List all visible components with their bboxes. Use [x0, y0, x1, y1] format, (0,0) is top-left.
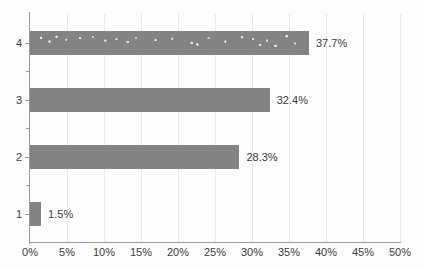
bar-value-label-1: 1.5% — [48, 202, 73, 226]
bar-row: 28.3% — [30, 142, 400, 172]
bar-value-label-2: 28.3% — [246, 145, 277, 169]
y-tick-minor — [26, 71, 30, 72]
y-tick-label-1: 1 — [0, 199, 22, 229]
x-tick-label: 40% — [315, 246, 337, 258]
y-tick-minor — [26, 128, 30, 129]
y-tick-label-3: 3 — [0, 85, 22, 115]
bar-value-label-3: 32.4% — [277, 88, 308, 112]
y-tick-major — [25, 100, 30, 101]
bar-value-label-4: 37.7% — [316, 31, 347, 55]
bar-3 — [30, 88, 270, 112]
x-tick-label: 0% — [22, 246, 38, 258]
plot-area: 37.7%32.4%28.3%1.5% — [30, 14, 400, 242]
x-tick-label: 15% — [130, 246, 152, 258]
bar-chart: 37.7%32.4%28.3%1.5% 4321 0%5%10%15%20%25… — [0, 0, 425, 269]
bar-row: 32.4% — [30, 85, 400, 115]
x-tick-label: 50% — [389, 246, 411, 258]
x-tick-label: 45% — [352, 246, 374, 258]
x-axis-line — [29, 242, 401, 243]
x-tick-label: 5% — [59, 246, 75, 258]
bar-2 — [30, 145, 239, 169]
bar-row: 1.5% — [30, 199, 400, 229]
gridline-50 — [400, 14, 401, 242]
y-tick-label-2: 2 — [0, 142, 22, 172]
bar-4 — [30, 31, 309, 55]
y-tick-major — [25, 214, 30, 215]
x-tick-label: 10% — [93, 246, 115, 258]
y-tick-label-4: 4 — [0, 28, 22, 58]
y-tick-major — [25, 43, 30, 44]
x-tick-label: 35% — [278, 246, 300, 258]
x-tick-label: 20% — [167, 246, 189, 258]
x-tick-label: 25% — [204, 246, 226, 258]
y-tick-minor — [26, 185, 30, 186]
y-tick-major — [25, 157, 30, 158]
bar-1 — [30, 202, 41, 226]
bar-row: 37.7% — [30, 28, 400, 58]
x-tick-label: 30% — [241, 246, 263, 258]
